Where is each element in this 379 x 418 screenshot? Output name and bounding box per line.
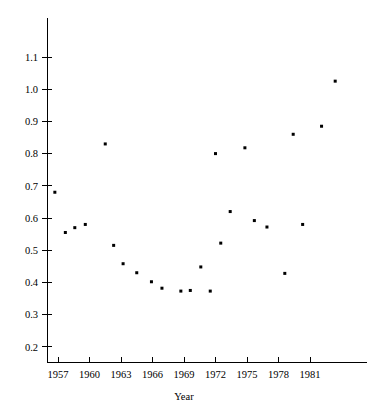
x-tick-label: 1972: [205, 369, 226, 380]
data-point: [135, 271, 138, 274]
axis-labels-layer: 0.20.30.40.50.60.70.80.91.01.11957196019…: [25, 52, 321, 402]
y-tick-label: 0.5: [25, 245, 38, 256]
data-point: [150, 280, 153, 283]
y-tick-label: 1.1: [25, 52, 38, 63]
data-point: [160, 287, 163, 290]
data-point: [189, 289, 192, 292]
data-point: [179, 290, 182, 293]
y-tick-label: 0.8: [25, 148, 38, 159]
plot-canvas: 0.20.30.40.50.60.70.80.91.01.11957196019…: [0, 0, 379, 418]
data-point: [253, 219, 256, 222]
data-point: [265, 226, 268, 229]
y-tick-label: 0.3: [25, 309, 38, 320]
x-tick-label: 1966: [142, 369, 163, 380]
y-axis: [42, 18, 52, 362]
data-point: [301, 223, 304, 226]
data-point: [199, 265, 202, 268]
y-tick-label: 0.7: [25, 181, 38, 192]
x-tick-label: 1963: [111, 369, 132, 380]
data-point: [84, 223, 87, 226]
data-point: [243, 146, 246, 149]
scatter-chart: 0.20.30.40.50.60.70.80.91.01.11957196019…: [0, 0, 379, 418]
x-tick-label: 1978: [268, 369, 289, 380]
x-axis: [47, 357, 367, 363]
data-point: [73, 226, 76, 229]
data-point: [283, 272, 286, 275]
data-point: [219, 242, 222, 245]
data-point: [320, 125, 323, 128]
y-tick-label: 0.6: [25, 213, 38, 224]
data-point: [53, 191, 56, 194]
y-tick-label: 0.9: [25, 116, 38, 127]
x-tick-label: 1975: [237, 369, 258, 380]
data-point: [229, 210, 232, 213]
x-axis-title: Year: [174, 391, 194, 402]
data-point: [292, 133, 295, 136]
y-tick-label: 0.2: [25, 342, 38, 353]
data-point: [214, 152, 217, 155]
x-tick-label: 1969: [174, 369, 195, 380]
data-point: [64, 231, 67, 234]
data-points-layer: [53, 80, 336, 293]
x-tick-label: 1957: [48, 369, 69, 380]
data-point: [209, 290, 212, 293]
x-tick-label: 1960: [79, 369, 100, 380]
data-point: [112, 244, 115, 247]
data-point: [104, 142, 107, 145]
y-tick-label: 0.4: [25, 277, 39, 288]
x-tick-label: 1981: [300, 369, 321, 380]
y-tick-label: 1.0: [25, 84, 38, 95]
data-point: [122, 262, 125, 265]
data-point: [334, 80, 337, 83]
